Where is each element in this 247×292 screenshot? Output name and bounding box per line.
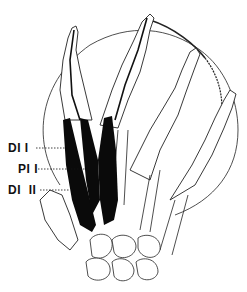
carpal-bones	[86, 234, 160, 281]
label-palmar-interosseous-1: PI I	[18, 163, 38, 175]
dorsal-interosseous-2	[98, 116, 118, 225]
label-dorsal-interosseous-1: DI I	[8, 142, 29, 154]
interosseous-muscles	[63, 116, 118, 232]
label-dorsal-interosseous-2: DI II	[8, 184, 36, 196]
hand-anatomy-diagram	[0, 0, 247, 292]
